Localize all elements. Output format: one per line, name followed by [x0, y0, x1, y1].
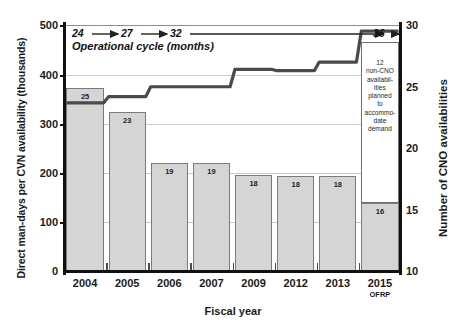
callout-line: to [362, 100, 397, 108]
bar-value-label-2005: 23 [107, 116, 147, 125]
bar-value-label-2015: 16 [360, 207, 400, 216]
bar-2009 [235, 175, 272, 272]
callout-line: 12 [362, 59, 397, 67]
callout-line: availabil- [362, 76, 397, 84]
callout-line: non-CNO [362, 67, 397, 75]
bar-2005 [109, 112, 146, 272]
bar-value-label-2007: 19 [191, 167, 231, 176]
x-tick-label-2015: 2015 [353, 277, 407, 289]
bar-value-label-2006: 19 [149, 167, 189, 176]
bar-value-label-2013: 18 [318, 180, 358, 189]
operational-cycle-value-36: 36 [373, 27, 385, 39]
callout-line: date [362, 117, 397, 125]
bar-value-label-2004: 25 [65, 92, 105, 101]
operational-cycle-value-32: 32 [170, 27, 182, 39]
axis-line-bottom [63, 270, 402, 273]
callout-line: planned [362, 92, 397, 100]
x-tick-sublabel-2015: OFRP [353, 290, 407, 299]
bar-2004 [66, 88, 103, 272]
operational-cycle-caption: Operational cycle (months) [72, 40, 214, 52]
bar-2006 [151, 163, 188, 272]
callout-line: ities [362, 84, 397, 92]
bar-value-label-2012: 18 [276, 180, 316, 189]
axis-line-right [399, 22, 402, 275]
axis-line-left [63, 22, 66, 275]
bar-2007 [193, 163, 230, 272]
callout-line: accommo- [362, 109, 397, 117]
operational-cycle-annotation: 24273236Operational cycle (months) [0, 0, 456, 60]
callout-line: demand [362, 125, 397, 133]
bar-value-label-2009: 18 [234, 179, 274, 188]
bar-2012 [277, 176, 314, 272]
chart-figure: Direct man-days per CVN availability (th… [0, 0, 456, 325]
operational-cycle-value-24: 24 [72, 27, 84, 39]
bar-2013 [319, 176, 356, 272]
callout-non-cno-availabilities: 12non-CNOavailabil-itiesplannedtoaccommo… [361, 42, 398, 203]
operational-cycle-value-27: 27 [121, 27, 133, 39]
